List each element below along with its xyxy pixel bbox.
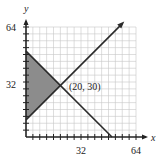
y-axis-arrowhead-icon [24, 19, 29, 25]
chart-canvas: y x 64 32 32 64 (20, 30) [0, 0, 157, 157]
y-tick-label-64: 64 [6, 22, 16, 33]
y-tick-label-32: 32 [6, 79, 16, 90]
x-tick-label-64: 64 [131, 145, 141, 156]
y-axis-label: y [23, 3, 29, 14]
x-tick-label-32: 32 [76, 145, 86, 156]
intersection-label: (20, 30) [69, 81, 101, 93]
x-axis-label: x [150, 132, 156, 143]
x-axis-arrowhead-icon [142, 135, 148, 140]
